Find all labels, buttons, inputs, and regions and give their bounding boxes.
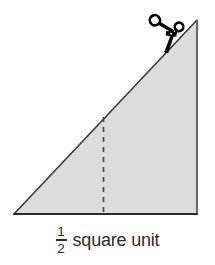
caption-row: 1 2 square unit (56, 225, 160, 256)
caption-text: square unit (73, 230, 160, 251)
figure-container: 1 2 square unit (0, 0, 215, 265)
fraction-one-half: 1 2 (56, 225, 67, 256)
fraction-numerator: 1 (56, 225, 66, 240)
fraction-denominator: 2 (56, 241, 66, 256)
caption: 1 2 square unit (0, 218, 215, 262)
scissors-handle-ring-lower (173, 21, 185, 33)
